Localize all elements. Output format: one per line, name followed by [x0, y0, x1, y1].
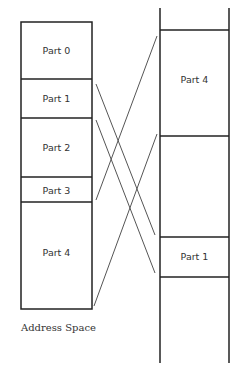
memory-mapping-diagram: Part 0 Part 1 Part 2 Part 3 Part 4 Addre… — [0, 0, 245, 376]
map-part1-top-line — [96, 84, 155, 235]
address-space-caption: Address Space — [20, 322, 96, 333]
phys-part4-label: Part 4 — [181, 74, 209, 85]
part0-label: Part 0 — [43, 45, 71, 56]
part4-label: Part 4 — [43, 247, 71, 258]
mapping-lines — [94, 36, 157, 306]
address-space-outline — [21, 22, 92, 309]
map-part1-bottom-line — [96, 120, 155, 273]
part3-label: Part 3 — [43, 185, 71, 196]
part1-label: Part 1 — [43, 93, 71, 104]
map-part4-top-line — [96, 36, 157, 200]
address-space-column: Part 0 Part 1 Part 2 Part 3 Part 4 Addre… — [20, 22, 96, 333]
part2-label: Part 2 — [43, 142, 71, 153]
physical-memory-column: Part 4 Part 1 — [160, 8, 229, 363]
phys-part1-label: Part 1 — [181, 251, 209, 262]
